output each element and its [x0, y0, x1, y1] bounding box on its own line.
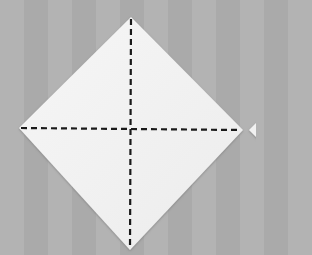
next-step-paper-edge	[249, 117, 256, 143]
vertical-fold-line	[130, 19, 131, 248]
origami-diagram	[0, 0, 256, 255]
